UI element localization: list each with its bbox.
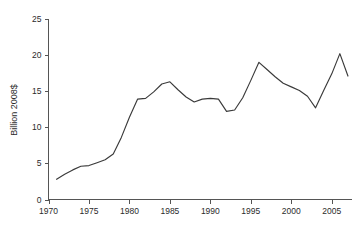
y-tick-label: 25 — [32, 14, 42, 24]
x-tick-label: 2005 — [322, 206, 341, 216]
x-tick-label: 1975 — [80, 206, 99, 216]
line-chart: 0510152025 19701975198019851990199520002… — [0, 0, 359, 231]
y-tick-label: 10 — [32, 122, 42, 132]
x-tick-label: 2000 — [282, 206, 301, 216]
x-tick-label: 1985 — [160, 206, 179, 216]
x-tick-label: 1980 — [120, 206, 139, 216]
chart-container: 0510152025 19701975198019851990199520002… — [0, 0, 359, 231]
x-axis: 19701975198019851990199520002005 — [39, 200, 352, 216]
y-tick-label: 15 — [32, 86, 42, 96]
y-tick-group: 0510152025 — [32, 14, 48, 205]
series-group — [57, 54, 348, 180]
x-tick-label: 1990 — [201, 206, 220, 216]
y-axis: 0510152025 — [32, 14, 48, 205]
y-axis-title: Billion 2008$ — [9, 84, 19, 136]
y-tick-label: 5 — [37, 158, 42, 168]
y-tick-label: 20 — [32, 50, 42, 60]
x-tick-label: 1995 — [241, 206, 260, 216]
x-tick-group: 19701975198019851990199520002005 — [39, 200, 341, 216]
y-tick-label: 0 — [37, 195, 42, 205]
data-series-line — [57, 54, 348, 180]
x-tick-label: 1970 — [39, 206, 58, 216]
